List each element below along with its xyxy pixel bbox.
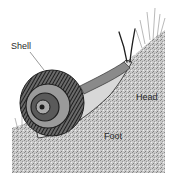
snail-diagram: Shell Head Foot: [0, 0, 174, 186]
foot-label: Foot: [104, 132, 122, 141]
shell-label: Shell: [11, 42, 31, 51]
shell-leader-line: [30, 52, 44, 70]
head-label: Head: [136, 93, 158, 102]
snail-shell: [20, 70, 84, 136]
